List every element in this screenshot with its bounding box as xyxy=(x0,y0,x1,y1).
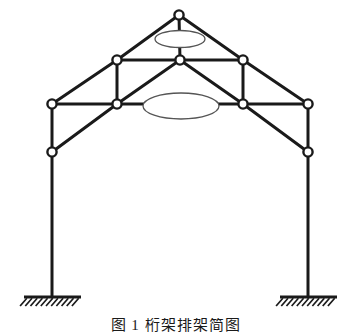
left-tie-node xyxy=(112,99,121,108)
upper-center-node xyxy=(175,55,184,64)
figure-root: 图 1 桁架排架简图 xyxy=(0,0,351,332)
truss-diagram xyxy=(0,0,351,332)
right-eave-node xyxy=(303,99,312,108)
figure-caption-strip: 图 1 桁架排架简图 xyxy=(0,318,351,332)
left-knee-node xyxy=(47,147,56,156)
apex-node xyxy=(174,10,183,19)
lower-ellipse-marker xyxy=(143,93,219,119)
upper-left-node xyxy=(112,55,121,64)
upper-ellipse-marker xyxy=(155,31,205,48)
left-eave-node xyxy=(47,99,56,108)
right-tie-node xyxy=(238,99,247,108)
right-knee-node xyxy=(303,147,312,156)
figure-caption: 图 1 桁架排架简图 xyxy=(0,318,351,332)
upper-right-node xyxy=(238,55,247,64)
